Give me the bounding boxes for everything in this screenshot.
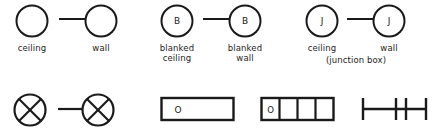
multi-outlet-box-svg: O [260,86,340,134]
label-junction-box-note: (junction box) [326,55,386,66]
label-plain-ceiling: ceiling [18,43,46,54]
busway-run-svg [358,86,438,134]
symbol-group-single-outlet-box: O [160,86,240,134]
single-outlet-box-rect-icon [162,98,234,120]
blanked-ceiling-letter: B [174,16,180,26]
single-outlet-box-svg: O [160,86,240,134]
label-plain-wall: wall [92,43,109,54]
junction-box-symbols-svg: J J [290,0,442,44]
label-blanked-wall-line2: wall [236,53,253,64]
symbol-legend-sheet: ceiling wall B B blanked ceiling blanked… [0,0,442,136]
label-junction-wall: wall [380,43,397,54]
label-blanked-ceiling-line2: ceiling [163,53,191,64]
crossed-ceiling-outlet-icon [15,95,46,126]
crossed-wall-outlet-icon [83,95,114,126]
junction-ceiling-letter: J [320,16,324,26]
label-blanked-ceiling-line1: blanked [160,43,194,54]
crossed-outlet-pair-svg [0,86,150,134]
symbol-group-multi-outlet-box: O [260,86,340,134]
ceiling-outlet-circle-icon [17,6,48,37]
symbol-group-crossed-outlet-pair [0,86,150,134]
label-blanked-wall-line1: blanked [228,43,262,54]
blanked-wall-letter: B [242,16,248,26]
single-outlet-box-letter: O [174,105,181,115]
wall-outlet-circle-icon [86,6,117,37]
label-junction-ceiling: ceiling [308,43,336,54]
junction-wall-letter: J [387,16,391,26]
symbol-group-busway-run [358,86,438,134]
multi-outlet-box-letter: O [267,105,274,115]
plain-outlet-symbols-svg [0,0,150,44]
blanked-outlet-symbols-svg: B B [145,0,285,44]
symbol-group-blanked-outlet: B B blanked ceiling blanked wall [145,0,285,44]
symbol-group-junction-box-outlet: J J ceiling wall (junction box) [290,0,442,44]
symbol-group-plain-outlet: ceiling wall [0,0,150,44]
